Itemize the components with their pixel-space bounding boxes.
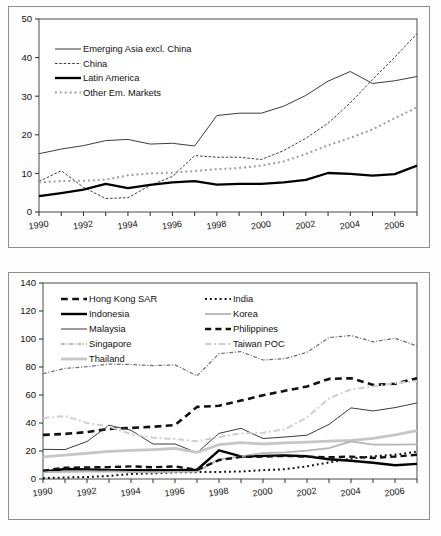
x-tick-label: 2006 [384, 219, 405, 232]
y-tick-label: 40 [21, 52, 32, 63]
legend-label: China [83, 59, 108, 69]
legend-label: Korea [233, 309, 259, 319]
y-tick-label: 140 [20, 277, 36, 288]
legend-label: India [233, 294, 254, 304]
legend-label: Philippines [233, 324, 278, 334]
x-tick-label: 2000 [252, 486, 273, 499]
legend-label: Taiwan POC [233, 339, 285, 349]
y-tick-label: 20 [25, 445, 36, 456]
y-tick-label: 20 [21, 129, 32, 140]
legend-label: Latin America [83, 73, 140, 83]
x-tick-label: 2006 [384, 486, 405, 499]
y-tick-label: 30 [21, 91, 32, 102]
legend-label: Indonesia [89, 309, 130, 319]
x-tick-label: 2002 [296, 486, 317, 499]
y-tick-label: 0 [31, 473, 36, 484]
y-tick-label: 0 [27, 206, 32, 217]
x-tick-label: 1998 [208, 486, 229, 499]
y-tick-label: 50 [21, 13, 32, 24]
x-tick-label: 1992 [72, 219, 93, 232]
legend-label: Emerging Asia excl. China [83, 44, 192, 54]
legend-label: Malaysia [89, 324, 127, 334]
x-tick-label: 2002 [295, 219, 316, 232]
y-tick-label: 80 [25, 361, 36, 372]
x-tick-label: 2004 [340, 486, 361, 499]
x-tick-label: 2004 [339, 219, 360, 232]
y-tick-label: 100 [20, 333, 36, 344]
bottom-chart-panel: 0204060801001201401990199219941996199820… [8, 272, 430, 520]
x-tick-label: 1998 [206, 219, 227, 232]
top-chart-panel: 0102030405019901992199419961998200020022… [8, 6, 430, 248]
x-tick-label: 1990 [32, 486, 53, 499]
legend-label: Thailand [89, 354, 125, 364]
x-tick-label: 1990 [28, 219, 49, 232]
x-tick-label: 1992 [76, 486, 97, 499]
bottom-chart-svg: 0204060801001201401990199219941996199820… [9, 273, 429, 519]
y-tick-label: 120 [20, 305, 36, 316]
figure-page: 0102030405019901992199419961998200020022… [0, 0, 441, 536]
x-tick-label: 2000 [250, 219, 271, 232]
y-tick-label: 10 [21, 168, 32, 179]
x-tick-label: 1994 [120, 486, 141, 499]
y-tick-label: 60 [25, 389, 36, 400]
y-tick-label: 40 [25, 417, 36, 428]
x-tick-label: 1994 [117, 219, 138, 232]
x-tick-label: 1996 [164, 486, 185, 499]
top-chart-svg: 0102030405019901992199419961998200020022… [9, 7, 429, 247]
legend-label: Other Em. Markets [83, 88, 161, 98]
legend-label: Hong Kong SAR [89, 294, 158, 304]
x-tick-label: 1996 [161, 219, 182, 232]
legend-label: Singapore [89, 339, 131, 349]
